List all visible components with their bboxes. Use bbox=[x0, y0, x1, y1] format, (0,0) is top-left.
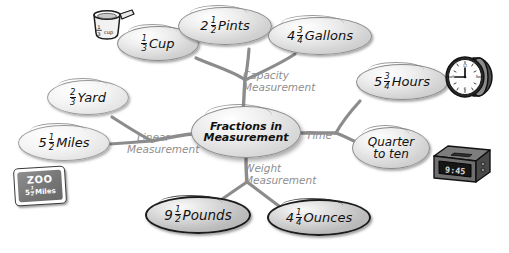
fraction-numerator: 3 bbox=[384, 72, 389, 81]
fraction-denominator: 3 bbox=[70, 97, 75, 107]
fraction-numerator: 1 bbox=[49, 133, 54, 142]
fraction-denominator: 2 bbox=[31, 191, 35, 197]
fraction-one-half: 1 2 bbox=[211, 16, 216, 34]
fraction-denominator: 2 bbox=[211, 25, 216, 35]
whole-number-nine: 9 bbox=[164, 208, 173, 222]
whole-number-five: 5 bbox=[39, 136, 47, 150]
zoo-sign-distance: 5 1 2 Miles bbox=[25, 186, 56, 198]
leaf-quarter-to-ten-line2: to ten bbox=[373, 148, 409, 160]
leaf-node-four-and-three-quarter-gallons[interactable]: 4 3 4 Gallons bbox=[268, 17, 372, 55]
fraction-denominator: 2 bbox=[175, 214, 181, 224]
branch-label-linear-line2: Measurement bbox=[127, 144, 199, 156]
zoo-sign-word: ZOO bbox=[26, 174, 52, 186]
fraction-numerator: 1 bbox=[141, 34, 146, 43]
svg-text:3: 3 bbox=[475, 75, 477, 79]
whole-number-four: 4 bbox=[287, 29, 295, 43]
whole-number-four: 4 bbox=[286, 211, 294, 225]
leaf-node-four-and-a-quarter-ounces[interactable]: 4 1 4 Ounces bbox=[267, 199, 371, 236]
leaf-unit-pints: Pints bbox=[218, 19, 250, 33]
branch-label-weight-line1: Weight bbox=[244, 163, 316, 175]
leaf-node-five-and-a-half-miles[interactable]: 5 1 2 Miles bbox=[18, 125, 110, 161]
cup-fraction-numerator: 1 bbox=[97, 24, 100, 30]
fraction-numerator: 2 bbox=[70, 88, 75, 97]
analog-clock-icon: 12 3 6 9 bbox=[443, 52, 495, 102]
fraction-one-quarter: 1 4 bbox=[296, 208, 301, 226]
leaf-unit-cup: Cup bbox=[149, 37, 175, 51]
cup-unit-label: cup bbox=[104, 29, 113, 36]
leaf-node-five-and-three-quarter-hours[interactable]: 5 3 4 Hours bbox=[356, 64, 448, 100]
fraction-denominator: 4 bbox=[384, 81, 389, 91]
center-node-line2: Measurement bbox=[203, 132, 288, 143]
leaf-node-nine-and-a-half-pounds[interactable]: 9 1 2 Pounds bbox=[145, 196, 251, 234]
fraction-denominator: 4 bbox=[296, 217, 301, 227]
branch-label-linear-measurement: Linear Measurement bbox=[127, 132, 199, 156]
zoo-road-sign-icon: ZOO 5 1 2 Miles bbox=[13, 165, 67, 206]
branch-label-time-line1: Time bbox=[306, 130, 332, 142]
branch-label-weight-measurement: Weight Measurement bbox=[244, 163, 316, 187]
digital-clock-icon: 9:45 bbox=[428, 142, 494, 188]
edge-time-hours bbox=[336, 101, 360, 133]
cup-fraction-denominator: 3 bbox=[97, 31, 100, 37]
branch-label-capacity-line2: Measurement bbox=[243, 82, 315, 94]
whole-number-five: 5 bbox=[374, 75, 382, 89]
svg-text:12: 12 bbox=[463, 64, 468, 68]
zoo-sign-inner: ZOO 5 1 2 Miles bbox=[17, 170, 63, 203]
fraction-numerator: 1 bbox=[175, 205, 181, 214]
branch-label-weight-line2: Measurement bbox=[244, 175, 316, 187]
fraction-denominator: 2 bbox=[49, 142, 54, 152]
center-node-fractions-in-measurement[interactable]: Fractions in Measurement bbox=[191, 106, 301, 158]
fraction-numerator: 1 bbox=[211, 16, 216, 25]
zoo-sign-unit: Miles bbox=[35, 188, 56, 196]
leaf-node-two-thirds-yard[interactable]: 2 3 Yard bbox=[47, 80, 129, 115]
leaf-unit-gallons: Gallons bbox=[305, 29, 353, 43]
leaf-unit-pounds: Pounds bbox=[183, 208, 232, 222]
fraction-one-third: 1 3 bbox=[141, 34, 146, 52]
leaf-unit-hours: Hours bbox=[392, 75, 430, 89]
fraction-three-quarters: 3 4 bbox=[297, 26, 302, 44]
mind-map-diagram: Fractions in Measurement Capacity Measur… bbox=[0, 0, 509, 253]
fraction-numerator: 3 bbox=[297, 26, 302, 35]
fraction-two-thirds: 2 3 bbox=[70, 88, 75, 106]
branch-label-linear-line1: Linear bbox=[127, 132, 199, 144]
fraction-one-half: 1 2 bbox=[175, 205, 181, 224]
leaf-unit-ounces: Ounces bbox=[304, 211, 353, 225]
branch-label-capacity-line1: Capacity bbox=[243, 70, 315, 82]
leaf-unit-miles: Miles bbox=[56, 136, 89, 150]
leaf-unit-yard: Yard bbox=[78, 91, 106, 105]
fraction-numerator: 1 bbox=[296, 208, 301, 217]
fraction-one-half: 1 2 bbox=[49, 133, 54, 151]
digital-clock-time: 9:45 bbox=[445, 165, 466, 177]
branch-label-time: Time bbox=[306, 130, 332, 142]
measuring-cup-icon: 1 3 cup bbox=[88, 6, 136, 42]
edge-capacity-cup bbox=[196, 58, 245, 80]
fraction-denominator: 3 bbox=[141, 43, 146, 53]
leaf-node-two-and-a-half-pints[interactable]: 2 1 2 Pints bbox=[178, 7, 272, 45]
fraction-three-quarters: 3 4 bbox=[384, 72, 389, 90]
zoo-sign-whole: 5 bbox=[25, 189, 30, 196]
fraction-denominator: 4 bbox=[297, 35, 302, 45]
leaf-node-quarter-to-ten[interactable]: Quarter to ten bbox=[352, 127, 430, 169]
zoo-sign-fraction: 1 2 bbox=[31, 187, 35, 198]
whole-number-two: 2 bbox=[200, 19, 208, 33]
branch-label-capacity-measurement: Capacity Measurement bbox=[243, 70, 315, 94]
